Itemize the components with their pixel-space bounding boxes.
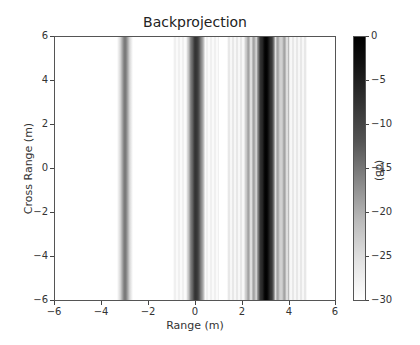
- y-tick-mark: [50, 256, 54, 257]
- colorbar-tick: [366, 300, 369, 301]
- y-tick-label: −4: [18, 250, 48, 261]
- x-tick-mark: [101, 301, 102, 305]
- colorbar-tick-label: 0: [371, 30, 377, 41]
- x-tick-label: −4: [86, 306, 116, 317]
- x-tick-label: 0: [180, 306, 210, 317]
- colorbar-tick-label: −25: [371, 250, 392, 261]
- y-tick-mark: [50, 124, 54, 125]
- x-tick-mark: [242, 301, 243, 305]
- chart-title: Backprojection: [54, 14, 336, 30]
- x-tick-label: −2: [133, 306, 163, 317]
- colorbar-tick: [366, 36, 369, 37]
- colorbar-tick-label: −30: [371, 294, 392, 305]
- x-axis-label: Range (m): [54, 319, 336, 332]
- target-stripe-3: [257, 37, 275, 300]
- colorbar-tick-label: −5: [371, 74, 386, 85]
- x-tick-label: 6: [320, 306, 350, 317]
- y-tick-mark: [50, 80, 54, 81]
- target-stripe-0: [187, 37, 205, 300]
- colorbar-tick: [366, 124, 369, 125]
- colorbar-tick: [366, 256, 369, 257]
- y-tick-label: 4: [18, 74, 48, 85]
- x-tick-mark: [289, 301, 290, 305]
- y-tick-label: 6: [18, 30, 48, 41]
- colorbar-tick: [366, 212, 369, 213]
- x-tick-label: −6: [39, 306, 69, 317]
- y-tick-mark: [50, 212, 54, 213]
- target-stripe-neg3: [117, 37, 133, 300]
- y-tick-mark: [50, 168, 54, 169]
- x-tick-mark: [195, 301, 196, 305]
- x-tick-mark: [335, 301, 336, 305]
- colorbar-tick: [366, 80, 369, 81]
- image-plot-area: [54, 36, 336, 301]
- x-tick-mark: [148, 301, 149, 305]
- y-tick-mark: [50, 36, 54, 37]
- y-axis-label: Cross Range (m): [22, 119, 35, 219]
- x-tick-label: 2: [227, 306, 257, 317]
- y-tick-label: −6: [18, 294, 48, 305]
- colorbar-tick-label: −10: [371, 118, 392, 129]
- x-tick-label: 4: [274, 306, 304, 317]
- colorbar: [353, 36, 366, 301]
- colorbar-unit-label: (dB): [374, 160, 385, 181]
- colorbar-tick: [366, 168, 369, 169]
- colorbar-tick-label: −20: [371, 206, 392, 217]
- y-tick-mark: [50, 300, 54, 301]
- x-tick-mark: [54, 301, 55, 305]
